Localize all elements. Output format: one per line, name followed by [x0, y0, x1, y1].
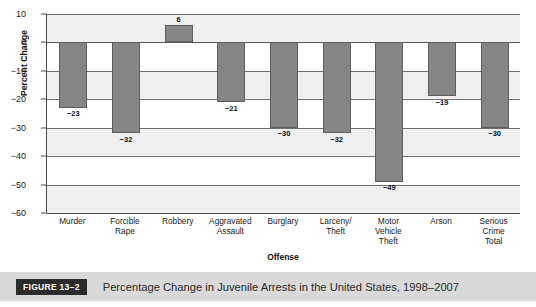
y-axis-tick-label: −40 — [0, 151, 26, 161]
figure-number-badge: FIGURE 13–2 — [16, 279, 87, 295]
y-axis-tick-label: 0 — [0, 37, 26, 47]
bar-value-label: 6 — [177, 15, 181, 24]
bar-value-label: −21 — [225, 104, 238, 113]
x-axis-label-line: Larceny/ — [309, 216, 362, 226]
x-axis-title: Offense — [46, 252, 520, 262]
x-axis-label-line: Forcible — [99, 216, 152, 226]
y-axis-title: Percent Change — [19, 3, 29, 123]
x-axis-category-label: SeriousCrimeTotal — [467, 216, 520, 247]
gridline — [47, 213, 520, 214]
x-axis-tick-labels: MurderForcibleRapeRobberyAggravatedAssau… — [46, 216, 520, 256]
bar-slot: −19 — [416, 14, 469, 213]
x-axis-category-label: Murder — [46, 216, 99, 226]
figure-caption-text: Percentage Change in Juvenile Arrests in… — [103, 281, 459, 293]
x-axis-label-line: Crime — [467, 226, 520, 236]
bar-value-label: −23 — [67, 109, 80, 118]
bar-slot: 6 — [152, 14, 205, 213]
bar-slot: −30 — [468, 14, 521, 213]
bar-value-label: −49 — [383, 183, 396, 192]
bar-slot: −32 — [310, 14, 363, 213]
x-axis-category-label: Robbery — [151, 216, 204, 226]
x-axis-label-line: Vehicle — [362, 226, 415, 236]
bar[interactable] — [428, 42, 456, 96]
bar[interactable] — [270, 42, 298, 127]
x-axis-label-line: Aggravated — [204, 216, 257, 226]
y-axis-tick-label: 10 — [0, 9, 26, 19]
x-axis-label-line: Total — [467, 236, 520, 246]
x-axis-label-line: Murder — [46, 216, 99, 226]
figure-caption-bar: FIGURE 13–2 Percentage Change in Juvenil… — [0, 272, 536, 301]
bar[interactable] — [165, 25, 193, 42]
bar[interactable] — [217, 42, 245, 102]
x-axis-label-line: Assault — [204, 226, 257, 236]
x-axis-category-label: AggravatedAssault — [204, 216, 257, 236]
bar-value-label: −30 — [278, 129, 291, 138]
figure-container: Percent Change 100−10−20−30−40−50−60−23−… — [0, 0, 536, 307]
x-axis-category-label: Burglary — [257, 216, 310, 226]
chart-area: Percent Change 100−10−20−30−40−50−60−23−… — [0, 0, 536, 265]
x-axis-category-label: Arson — [415, 216, 468, 226]
y-axis-tick-label: −60 — [0, 208, 26, 218]
x-axis-label-line: Robbery — [151, 216, 204, 226]
x-axis-label-line: Theft — [362, 236, 415, 246]
bar[interactable] — [375, 42, 403, 181]
x-axis-label-line: Arson — [415, 216, 468, 226]
plot-area: 100−10−20−30−40−50−60−23−326−21−30−32−49… — [46, 14, 520, 213]
bar-slot: −32 — [100, 14, 153, 213]
bar[interactable] — [481, 42, 509, 127]
y-axis-tick-label: −20 — [0, 94, 26, 104]
x-axis-category-label: ForcibleRape — [99, 216, 152, 236]
bar-slot: −30 — [258, 14, 311, 213]
x-axis-category-label: Larceny/Theft — [309, 216, 362, 236]
y-axis-tick-label: −30 — [0, 123, 26, 133]
x-axis-label-line: Burglary — [257, 216, 310, 226]
y-axis-tick-label: −10 — [0, 66, 26, 76]
x-axis-label-line: Motor — [362, 216, 415, 226]
bar[interactable] — [323, 42, 351, 133]
bar-value-label: −19 — [436, 98, 449, 107]
x-axis-label-line: Rape — [99, 226, 152, 236]
bar-slot: −49 — [363, 14, 416, 213]
y-axis-tick-label: −50 — [0, 180, 26, 190]
bar[interactable] — [59, 42, 87, 107]
bar-value-label: −30 — [488, 129, 501, 138]
bar-value-label: −32 — [330, 135, 343, 144]
x-axis-label-line: Theft — [309, 226, 362, 236]
bar-slot: −23 — [47, 14, 100, 213]
x-axis-category-label: MotorVehicleTheft — [362, 216, 415, 247]
bar-slot: −21 — [205, 14, 258, 213]
bar-value-label: −32 — [120, 135, 133, 144]
bar[interactable] — [112, 42, 140, 133]
x-axis-label-line: Serious — [467, 216, 520, 226]
